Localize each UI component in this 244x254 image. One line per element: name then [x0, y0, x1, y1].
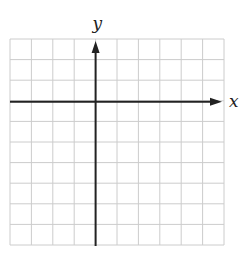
- y-axis: [92, 41, 100, 246]
- grid-lines: [10, 39, 224, 245]
- coordinate-grid: x y: [0, 0, 244, 254]
- x-axis-arrow-icon: [210, 98, 222, 106]
- x-axis-label: x: [229, 91, 239, 111]
- y-axis-arrow-icon: [92, 41, 100, 53]
- x-axis: [10, 98, 222, 106]
- y-axis-label: y: [92, 13, 103, 33]
